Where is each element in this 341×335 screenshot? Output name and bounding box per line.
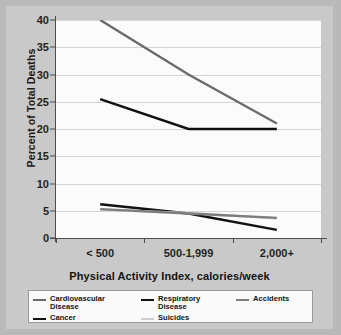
series-line xyxy=(100,99,277,129)
y-tick-label: 15 xyxy=(37,150,49,162)
legend-column: Cardiovascular DiseaseCancer xyxy=(33,295,105,324)
plot-area: 0510152025303540 < 500500-1,9992,000+ xyxy=(56,20,321,238)
legend-label: Cancer xyxy=(50,314,76,322)
x-tick-label: 2,000+ xyxy=(260,247,294,259)
series-line xyxy=(100,209,277,218)
y-tick-label: 35 xyxy=(37,41,49,53)
y-tick-mark xyxy=(50,129,55,130)
legend-item[interactable]: Suicides xyxy=(141,314,200,322)
y-tick-mark xyxy=(50,210,55,211)
chart-card: Percent of Total Deaths 0510152025303540… xyxy=(6,6,333,329)
figure: Percent of Total Deaths 0510152025303540… xyxy=(0,0,341,335)
x-tick-mark xyxy=(321,238,322,243)
x-tick-label: 500-1,999 xyxy=(164,247,214,259)
y-tick-label: 5 xyxy=(43,205,49,217)
y-tick-label: 40 xyxy=(37,14,49,26)
legend-swatch-icon xyxy=(141,299,154,301)
legend-label: Respiratory Disease xyxy=(158,295,200,312)
legend-label: Accidents xyxy=(253,295,289,303)
y-tick-label: 20 xyxy=(37,123,49,135)
x-tick-label: < 500 xyxy=(86,247,114,259)
legend-item[interactable]: Cardiovascular Disease xyxy=(33,295,105,312)
legend: Cardiovascular DiseaseCancerRespiratory … xyxy=(28,290,313,323)
x-axis-title: Physical Activity Index, calories/week xyxy=(6,270,333,282)
legend-item[interactable]: Cancer xyxy=(33,314,105,322)
y-tick-label: 0 xyxy=(43,232,49,244)
y-tick-mark xyxy=(50,156,55,157)
legend-column: Accidents xyxy=(236,295,289,305)
y-tick-mark xyxy=(50,238,55,239)
y-tick-mark xyxy=(50,183,55,184)
y-tick-label: 10 xyxy=(37,178,49,190)
y-tick-mark xyxy=(50,20,55,21)
y-axis-title: Percent of Total Deaths xyxy=(25,43,37,173)
legend-swatch-icon xyxy=(33,318,46,320)
legend-label: Cardiovascular Disease xyxy=(50,295,105,312)
legend-item[interactable]: Respiratory Disease xyxy=(141,295,200,312)
legend-label: Suicides xyxy=(158,314,189,322)
y-tick-label: 25 xyxy=(37,96,49,108)
y-tick-mark xyxy=(50,101,55,102)
x-tick-mark xyxy=(233,238,234,243)
x-tick-mark xyxy=(144,238,145,243)
legend-swatch-icon xyxy=(141,318,154,320)
y-tick-mark xyxy=(50,47,55,48)
legend-column: Respiratory DiseaseSuicides xyxy=(141,295,200,324)
legend-swatch-icon xyxy=(236,299,249,301)
y-tick-label: 30 xyxy=(37,69,49,81)
legend-item[interactable]: Accidents xyxy=(236,295,289,303)
y-tick-mark xyxy=(50,74,55,75)
x-axis-line xyxy=(50,238,327,239)
x-tick-mark xyxy=(56,238,57,243)
legend-swatch-icon xyxy=(33,299,46,301)
series-lines xyxy=(56,20,321,238)
